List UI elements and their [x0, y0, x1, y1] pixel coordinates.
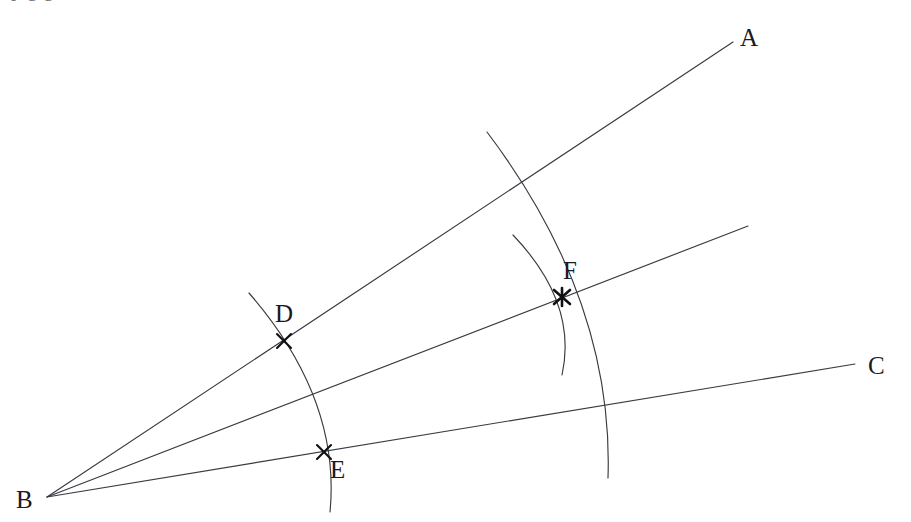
figure-canvas [0, 0, 911, 522]
ray-BA [47, 42, 733, 497]
point-label-D: D [275, 301, 293, 326]
point-mark-F [554, 288, 570, 306]
arc-from-D-through-F [487, 132, 608, 478]
vertex-label-A: A [740, 25, 758, 50]
point-label-F: F [563, 258, 577, 283]
point-mark-D [277, 334, 291, 348]
point-marks-group [277, 288, 570, 459]
arc-from-E-through-F [513, 235, 565, 375]
point-label-E: E [330, 457, 345, 482]
geometry-figure: , p g g [0, 0, 911, 522]
ray-bisector-BF [47, 226, 748, 497]
vertex-label-B: B [16, 487, 33, 512]
rays-group [47, 42, 855, 497]
ray-BC [47, 364, 855, 497]
vertex-label-C: C [868, 353, 885, 378]
